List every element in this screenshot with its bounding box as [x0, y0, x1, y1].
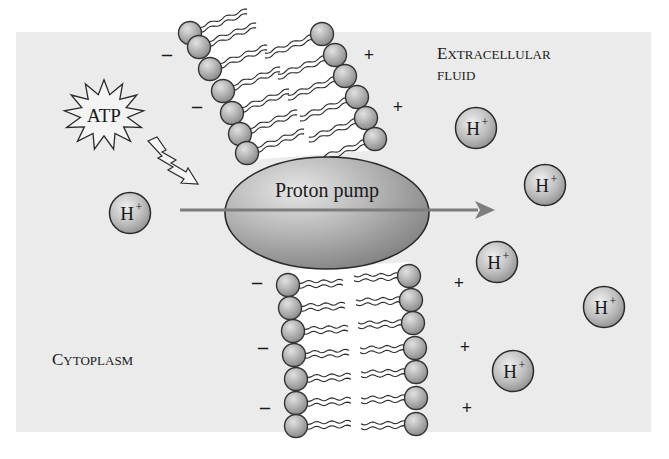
phospholipid-head: [346, 86, 369, 109]
positive-charge-sign: +: [460, 337, 470, 357]
proton-pump-label: Proton pump: [275, 179, 379, 202]
proton-pump-diagram: Proton pump ATP –––––+++++ H+H+H+H+H+H+ …: [0, 0, 669, 459]
phospholipid-head: [355, 107, 378, 130]
svg-text:+: +: [519, 358, 526, 372]
phospholipid-head: [311, 23, 334, 46]
extracellular-fluid-label: EXTRACELLULAR: [437, 44, 551, 63]
positive-charge-sign: +: [462, 398, 472, 418]
svg-text:H: H: [535, 175, 549, 196]
phospholipid-head: [398, 265, 421, 288]
positive-charge-sign: +: [393, 97, 403, 117]
cytoplasm-label: CYTOPLASM: [52, 350, 134, 369]
negative-charge-sign: –: [257, 336, 269, 358]
hydrogen-ion: H+: [456, 108, 497, 149]
phospholipid-head: [188, 36, 211, 59]
hydrogen-ion: H+: [493, 351, 534, 392]
phospholipid-head: [285, 415, 308, 438]
fluid-label: FLUID: [437, 68, 475, 83]
proton-pump: Proton pump: [225, 157, 429, 269]
atp-label: ATP: [87, 105, 121, 126]
phospholipid-head: [279, 297, 302, 320]
phospholipid-head: [283, 344, 306, 367]
phospholipid-head: [405, 387, 428, 410]
svg-text:H: H: [120, 203, 134, 224]
hydrogen-ion: H+: [584, 287, 625, 328]
phospholipid-head: [277, 274, 300, 297]
svg-text:+: +: [136, 200, 143, 214]
phospholipid-head: [364, 128, 387, 151]
phospholipid-head: [404, 337, 427, 360]
hydrogen-ion: H+: [110, 193, 151, 234]
phospholipid-head: [405, 413, 428, 436]
hydrogen-ion: H+: [525, 165, 566, 206]
phospholipid-head: [324, 44, 347, 67]
negative-charge-sign: –: [251, 271, 263, 293]
svg-text:+: +: [610, 294, 617, 308]
svg-text:H: H: [466, 118, 480, 139]
phospholipid-head: [236, 142, 259, 165]
phospholipid-head: [285, 368, 308, 391]
negative-charge-sign: –: [259, 396, 271, 418]
phospholipid-head: [405, 361, 428, 384]
phospholipid-head: [221, 102, 244, 125]
phospholipid-head: [400, 289, 423, 312]
svg-text:+: +: [503, 249, 510, 263]
negative-charge-sign: –: [161, 43, 173, 65]
positive-charge-sign: +: [364, 45, 374, 65]
phospholipid-head: [212, 80, 235, 103]
svg-text:H: H: [487, 252, 501, 273]
phospholipid-head: [199, 58, 222, 81]
svg-text:+: +: [551, 172, 558, 186]
negative-charge-sign: –: [191, 95, 203, 117]
svg-text:H: H: [594, 297, 608, 318]
phospholipid-head: [285, 392, 308, 415]
phospholipid-head: [282, 320, 305, 343]
positive-charge-sign: +: [454, 273, 464, 293]
hydrogen-ion: H+: [477, 242, 518, 283]
svg-text:+: +: [482, 115, 489, 129]
phospholipid-head: [334, 65, 357, 88]
svg-text:H: H: [503, 361, 517, 382]
phospholipid-head: [402, 312, 425, 335]
